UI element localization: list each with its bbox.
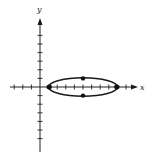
x-axis-label: x xyxy=(140,83,145,92)
ellipse-diagram: x y xyxy=(0,0,149,158)
focus-dot xyxy=(114,85,118,89)
y-arrow-icon xyxy=(38,18,43,25)
point-dot xyxy=(81,93,85,97)
point-dot xyxy=(81,76,85,80)
y-axis-label: y xyxy=(36,5,42,14)
focus-dot xyxy=(48,85,52,89)
x-arrow-icon xyxy=(131,85,138,90)
